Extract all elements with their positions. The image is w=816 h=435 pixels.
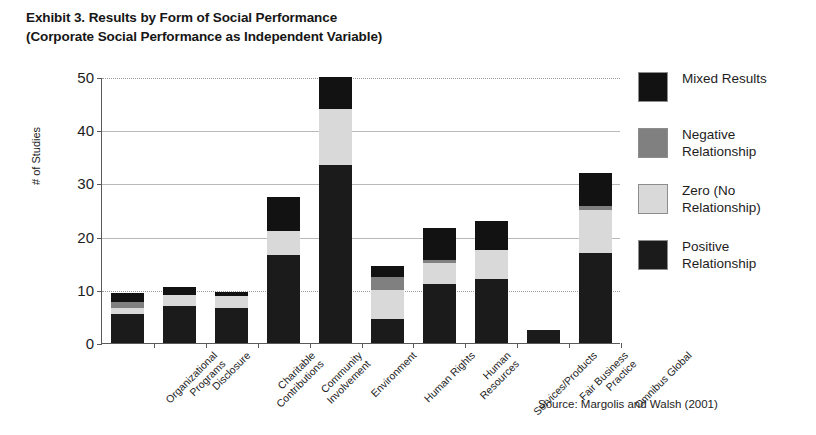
bar-segment-positive <box>423 284 456 343</box>
bar-charitable-contributions <box>215 292 248 343</box>
x-axis-label-line: Programs <box>171 357 227 413</box>
chart-title-line-1: Exhibit 3. Results by Form of Social Per… <box>26 8 586 27</box>
bar-segment-positive <box>579 253 612 343</box>
bar-human-rights <box>371 266 404 343</box>
y-tick-label-40: 40 <box>54 122 94 139</box>
legend-item-mixed[interactable]: Mixed Results <box>638 70 816 126</box>
x-tick-mark <box>517 343 518 348</box>
x-axis-label-line: Disclosure <box>209 349 252 392</box>
bar-segment-zero <box>579 210 612 253</box>
legend-swatch-mixed <box>638 72 668 102</box>
legend-label-zero: Zero (NoRelationship) <box>682 182 814 216</box>
bar-segment-zero <box>423 263 456 284</box>
source-note: Source: Margolis and Walsh (2001) <box>538 398 718 410</box>
bar-segment-mixed <box>319 77 352 109</box>
y-axis-title: # of Studies <box>30 127 42 185</box>
bar-segment-positive <box>527 330 560 343</box>
bar-segment-mixed <box>475 221 508 250</box>
bar-segment-zero <box>475 250 508 279</box>
x-tick-mark <box>154 343 155 348</box>
bar-segment-mixed <box>579 173 612 206</box>
x-axis-label-0: OrganizationalPrograms <box>163 349 228 414</box>
bar-omnibus-global <box>579 173 612 343</box>
legend-item-negative[interactable]: NegativeRelationship <box>638 126 816 182</box>
y-tick-label-20: 20 <box>54 229 94 246</box>
x-axis-label-line: Organizational <box>163 349 219 405</box>
legend-label-line: Negative <box>682 126 814 143</box>
plot-area <box>101 78 620 344</box>
bar-fair-business-practice <box>527 330 560 343</box>
x-axis-label-5: Human Rights <box>422 349 478 405</box>
bar-human-resources <box>423 228 456 343</box>
x-tick-mark <box>621 343 622 348</box>
bar-segment-zero <box>163 295 196 306</box>
legend-label-line: Relationship <box>682 143 814 160</box>
x-tick-mark <box>362 343 363 348</box>
bar-segment-positive <box>319 165 352 343</box>
bar-disclosure <box>163 287 196 343</box>
x-axis-label-line: Involvement <box>324 357 373 406</box>
y-tick-label-10: 10 <box>54 282 94 299</box>
x-axis-label-line: Community <box>315 349 364 398</box>
x-tick-mark <box>310 343 311 348</box>
legend-label-positive: PositiveRelationship <box>682 238 814 272</box>
bar-segment-negative <box>371 277 404 290</box>
bar-community-involvement <box>267 197 300 343</box>
legend-label-line: Positive <box>682 238 814 255</box>
x-tick-mark <box>413 343 414 348</box>
y-tick-mark-0 <box>97 344 102 345</box>
bar-segment-zero <box>267 231 300 255</box>
bar-segment-mixed <box>371 266 404 277</box>
bar-segment-mixed <box>423 228 456 260</box>
x-axis-label-6: HumanResources <box>469 349 521 401</box>
x-axis-label-3: CommunityInvolvement <box>315 349 372 406</box>
y-tick-label-50: 50 <box>54 69 94 86</box>
bar-segment-positive <box>371 319 404 343</box>
legend-swatch-positive <box>638 240 668 270</box>
y-tick-label-0: 0 <box>54 335 94 352</box>
legend-label-line: Zero (No <box>682 182 814 199</box>
legend-label-mixed: Mixed Results <box>682 70 814 87</box>
x-axis-label-2: CharitableContributions <box>265 349 326 410</box>
legend-label-negative: NegativeRelationship <box>682 126 814 160</box>
bar-segment-positive <box>111 314 144 343</box>
legend-item-positive[interactable]: PositiveRelationship <box>638 238 816 294</box>
chart-root: Exhibit 3. Results by Form of Social Per… <box>0 0 816 435</box>
x-axis-label-line: Charitable <box>265 349 317 401</box>
bar-segment-positive <box>475 279 508 343</box>
chart-title: Exhibit 3. Results by Form of Social Per… <box>26 8 586 46</box>
x-axis-label-line: Contributions <box>273 357 325 409</box>
bar-services-products <box>475 221 508 343</box>
x-tick-mark <box>465 343 466 348</box>
bar-organizational-programs <box>111 293 144 344</box>
bar-segment-mixed <box>111 293 144 303</box>
x-axis-label-line: Resources <box>478 357 522 401</box>
legend-swatch-zero <box>638 184 668 214</box>
x-tick-mark <box>258 343 259 348</box>
x-tick-mark <box>569 343 570 348</box>
bar-segment-positive <box>163 306 196 343</box>
x-axis-label-line: Human <box>469 349 513 393</box>
legend-label-line: Relationship) <box>682 199 814 216</box>
legend-label-line: Relationship <box>682 255 814 272</box>
legend-swatch-negative <box>638 128 668 158</box>
x-axis-label-line: Human Rights <box>422 349 478 405</box>
x-axis-label-line: Environment <box>368 349 418 399</box>
bar-segment-positive <box>267 255 300 343</box>
x-axis-label-4: Environment <box>368 349 418 399</box>
chart-legend: Mixed ResultsNegativeRelationshipZero (N… <box>638 70 816 294</box>
legend-item-zero[interactable]: Zero (NoRelationship) <box>638 182 816 238</box>
bar-segment-zero <box>371 290 404 319</box>
bar-segment-mixed <box>163 287 196 295</box>
bar-segment-mixed <box>267 197 300 232</box>
x-tick-mark <box>206 343 207 348</box>
legend-label-line: Mixed Results <box>682 70 814 87</box>
x-axis-label-line: Fair Business <box>577 349 630 402</box>
bar-segment-positive <box>215 308 248 343</box>
chart-title-line-2: (Corporate Social Performance as Indepen… <box>26 27 586 46</box>
x-axis-label-1: Disclosure <box>209 349 252 392</box>
y-tick-label-30: 30 <box>54 175 94 192</box>
bar-environment <box>319 77 352 343</box>
bar-segment-zero <box>319 109 352 165</box>
bars-layer <box>102 78 620 343</box>
